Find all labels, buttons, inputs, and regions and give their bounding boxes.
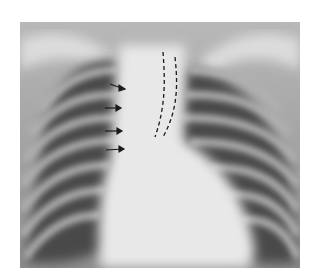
chest-xray-image <box>20 22 300 268</box>
xray-rendering <box>20 22 300 268</box>
